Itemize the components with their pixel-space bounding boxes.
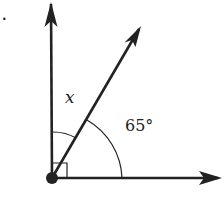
angle-label-x: x xyxy=(65,89,75,106)
angle-label-65: 65° xyxy=(125,118,153,134)
angle-arc-x xyxy=(52,132,76,138)
diagonal-arrowhead-icon xyxy=(125,26,142,47)
angle-diagram xyxy=(0,0,224,197)
vertical-ray xyxy=(51,4,52,178)
vertex-point xyxy=(46,172,58,184)
angle-arc-65 xyxy=(87,120,122,178)
